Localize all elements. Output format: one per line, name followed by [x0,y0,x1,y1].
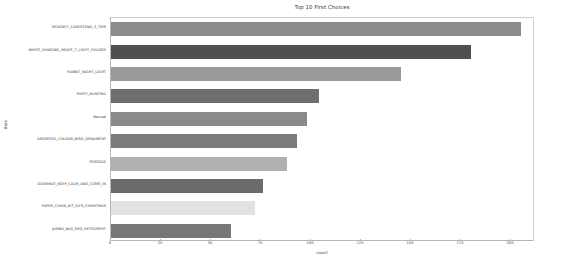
x-tick-label: 200 [506,241,513,245]
y-tick-label: DOORMAT_KEEP_CALM_AND_COME_IN [37,183,106,187]
bar-6 [111,157,287,171]
bar-fill [111,157,287,171]
bar-4 [111,112,307,126]
bar-9 [111,224,231,238]
y-tick-label: PARTY_BUNTING [77,94,106,98]
x-tick-label: 0 [109,241,111,245]
y-tick-label: JUMBO_BAG_RED_RETROSPOT [52,228,106,232]
bar-fill [111,201,255,215]
bar-3 [111,89,319,103]
x-tick-label: 100 [306,241,313,245]
bar-5 [111,134,297,148]
bar-7 [111,179,263,193]
bar-fill [111,112,307,126]
x-axis-label: count [110,250,534,255]
y-tick-label: PAPER_CHAIN_KIT_50'S_CHRISTMAS [42,206,106,210]
x-tick-label: 50 [208,241,213,245]
bar-8 [111,201,255,215]
bar-fill [111,89,319,103]
bar-fill [111,22,521,36]
bar-fill [111,224,231,238]
bar-fill [111,67,401,81]
x-tick-label: 25 [158,241,163,245]
y-tick-label: ASSORTED_COLOUR_BIRD_ORNAMENT [37,138,106,142]
bar-0 [111,22,521,36]
y-tick-label: Manual [93,116,106,120]
y-tick-label: POSTAGE [89,161,106,165]
x-tick-label: 125 [356,241,363,245]
x-tick-label: 75 [258,241,263,245]
x-tick-label: 150 [406,241,413,245]
bar-fill [111,179,263,193]
y-tick-label: REGENCY_CAKESTAND_3_TIER [52,26,106,30]
bar-2 [111,67,401,81]
y-tick-label: RABBIT_NIGHT_LIGHT [67,71,106,75]
bar-fill [111,45,471,59]
x-tick-label: 175 [456,241,463,245]
plot-area [110,17,534,241]
y-tick-label: WHITE_HANGING_HEART_T_LIGHT_HOLDER [29,49,106,53]
chart-title: Top 10 First Choices [110,4,534,10]
y-axis-tick-labels: REGENCY_CAKESTAND_3_TIERWHITE_HANGING_HE… [0,17,106,241]
bar-fill [111,134,297,148]
bar-1 [111,45,471,59]
chart-figure: Top 10 First Choices item REGENCY_CAKEST… [0,0,569,263]
